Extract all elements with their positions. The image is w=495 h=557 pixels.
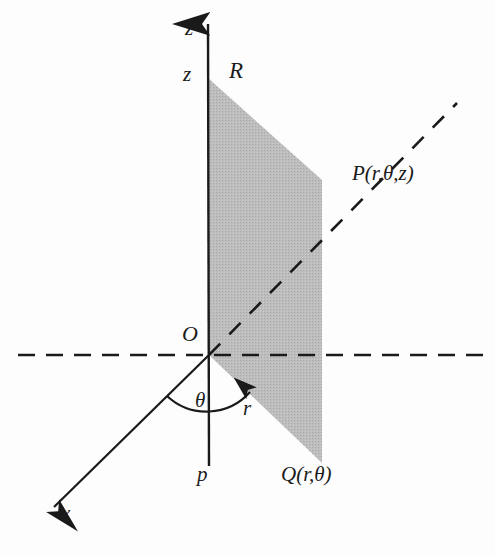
label-z-axis: z [185,18,193,39]
x-axis-line [54,355,209,507]
label-point-r: R [229,59,243,82]
label-point-p: P(r,θ,z) [352,163,414,184]
label-origin: O [182,323,198,345]
label-p-lowercase: p [197,464,208,485]
label-z-height: z [183,64,191,85]
label-theta: θ [195,390,205,411]
label-x-axis: x [61,503,70,524]
z-axis-line [208,24,209,466]
label-point-q: Q(r,θ) [281,464,332,485]
vertical-half-plane [208,78,322,463]
diagram-canvas [0,0,495,557]
cylindrical-coordinates-diagram: z z R P(r,θ,z) O θ r p Q(r,θ) x [0,0,495,557]
label-radius: r [243,398,251,419]
